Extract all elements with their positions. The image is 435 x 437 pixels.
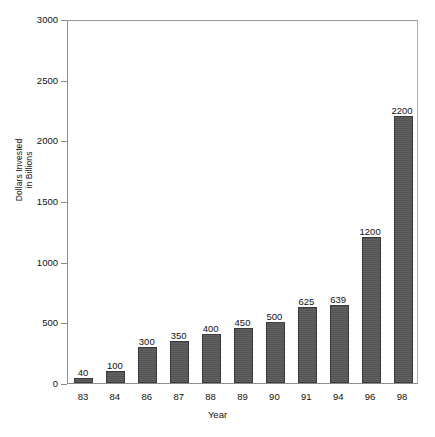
bar-96[interactable] xyxy=(362,237,381,383)
y-axis-tick-label: 2000 xyxy=(0,135,58,146)
bar-chart: Dollars Invested in Billions 05001000150… xyxy=(0,0,435,437)
y-axis-tick xyxy=(61,384,67,385)
y-axis-tick-label: 3000 xyxy=(0,14,58,25)
bar-86[interactable] xyxy=(138,347,157,383)
x-axis-tick-label: 98 xyxy=(380,391,424,402)
bar-94[interactable] xyxy=(330,305,349,383)
y-axis-tick-label: 500 xyxy=(0,317,58,328)
y-axis-title-line1: Dollars Invested xyxy=(14,139,24,202)
y-axis-tick-label: 0 xyxy=(0,378,58,389)
bar-84[interactable] xyxy=(106,371,125,383)
bar-89[interactable] xyxy=(234,328,253,383)
bar-98[interactable] xyxy=(394,116,413,383)
y-axis-title: Dollars Invested in Billions xyxy=(14,110,34,230)
y-axis-tick-label: 1000 xyxy=(0,257,58,268)
bar-91[interactable] xyxy=(298,307,317,383)
y-axis-tick-label: 2500 xyxy=(0,75,58,86)
y-axis-tick-label: 1500 xyxy=(0,196,58,207)
plot-area xyxy=(67,20,418,384)
bar-87[interactable] xyxy=(170,341,189,383)
bar-88[interactable] xyxy=(202,334,221,383)
bar-90[interactable] xyxy=(266,322,285,383)
bar-83[interactable] xyxy=(74,378,93,383)
y-axis-title-line2: in Billions xyxy=(24,110,34,230)
bars-layer xyxy=(68,21,417,383)
x-axis-title: Year xyxy=(0,409,435,420)
